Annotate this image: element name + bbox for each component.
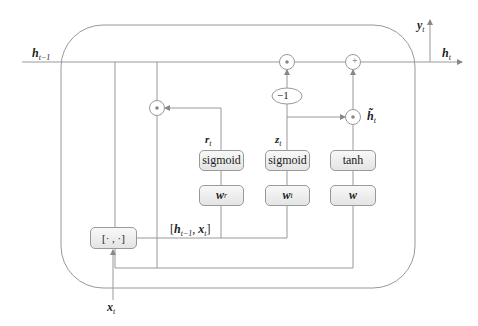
w-update-box: wt: [265, 185, 310, 206]
neg-one-op: −1: [277, 89, 289, 101]
mul-candidate-icon: [351, 115, 355, 119]
mul-update-icon: [285, 60, 289, 64]
w-reset-box: wr: [199, 185, 244, 206]
tanh-box: tanh: [330, 150, 376, 171]
w-candidate-box: w: [330, 185, 376, 206]
gru-diagram: + −1 ht−1 ht yt rt zt h̃t sigmoid sigmoi…: [0, 0, 478, 326]
h-out-label: ht: [442, 46, 451, 62]
add-op: +: [352, 55, 358, 66]
sigmoid-update-box: sigmoid: [265, 150, 310, 171]
y-out-label: yt: [417, 18, 425, 34]
concat-annotation: [ht−1, xt]: [170, 222, 211, 238]
h-prev-label: ht−1: [32, 46, 50, 62]
z-gate-label: zt: [275, 133, 282, 148]
concat-box: [· , ·]: [90, 227, 137, 249]
sigmoid-reset-box: sigmoid: [199, 150, 244, 171]
r-gate-label: rt: [205, 133, 212, 148]
mul-reset-icon: [155, 106, 159, 110]
x-input-label: xt: [107, 300, 115, 316]
h-tilde-label: h̃t: [367, 109, 376, 125]
